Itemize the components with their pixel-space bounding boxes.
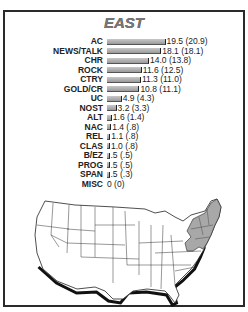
- bar: [107, 162, 110, 168]
- bar-row: MISC0 (0): [5, 180, 243, 190]
- bar: [107, 115, 112, 121]
- chart-title: EAST: [5, 14, 243, 31]
- bar-row: AC19.5 (20.9): [5, 37, 243, 47]
- bar: [107, 48, 161, 54]
- bar: [107, 96, 122, 102]
- bar: [107, 124, 111, 130]
- us-map-east-region: [15, 195, 233, 307]
- bar: [107, 77, 141, 83]
- bar: [107, 134, 110, 140]
- bar: [107, 143, 110, 149]
- bar: [107, 172, 110, 178]
- bar-value: 0 (0): [107, 180, 124, 190]
- bar-row: CTRY11.3 (11.0): [5, 75, 243, 85]
- bar: [107, 153, 110, 159]
- bar: [107, 67, 142, 73]
- bar-row: CHR14.0 (13.8): [5, 56, 243, 66]
- bar: [107, 105, 117, 111]
- bar-list: AC19.5 (20.9)NEWS/TALK18.1 (18.1)CHR14.0…: [5, 37, 243, 189]
- bar-label: MISC: [82, 180, 103, 190]
- bar: [107, 58, 149, 64]
- bar: [107, 86, 139, 92]
- chart-frame: EAST AC19.5 (20.9)NEWS/TALK18.1 (18.1)CH…: [3, 10, 245, 307]
- bar: [107, 39, 166, 45]
- bar-row: ROCK11.6 (12.5): [5, 66, 243, 76]
- bar-row: NEWS/TALK18.1 (18.1): [5, 47, 243, 57]
- bar-row: SPAN.5 (.3): [5, 170, 243, 180]
